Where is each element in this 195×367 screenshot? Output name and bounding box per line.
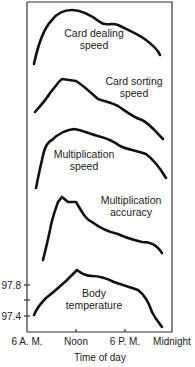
chart-frame [27,2,172,332]
label-multiplication-speed-line2: speed [70,160,99,172]
label-card-sorting-line1: Card sorting [105,75,162,87]
label-body-temperature-line1: Body [82,287,107,299]
label-card-dealing-line2: speed [80,39,109,51]
x-tick-label-6pm: 6 P. M. [110,336,140,347]
x-axis-title: Time of day [74,352,126,363]
y-tick-label-97-8: 97.8 [2,280,22,291]
label-multiplication-accuracy-line2: accuracy [110,206,153,218]
label-multiplication-speed-line1: Multiplication [54,148,115,160]
y-tick-label-97-4: 97.4 [2,311,22,322]
label-card-dealing-line1: Card dealing [64,27,124,39]
x-tick-label-midnight: Midnight [153,336,191,347]
x-tick-label-6am: 6 A. M. [11,336,42,347]
label-card-sorting-line2: speed [120,87,149,99]
label-multiplication-accuracy-line1: Multiplication [101,194,162,206]
label-body-temperature-line2: temperature [66,299,123,311]
performance-circadian-chart: Card dealing speed Card sorting speed Mu… [0,0,195,367]
x-tick-label-noon: Noon [64,336,88,347]
